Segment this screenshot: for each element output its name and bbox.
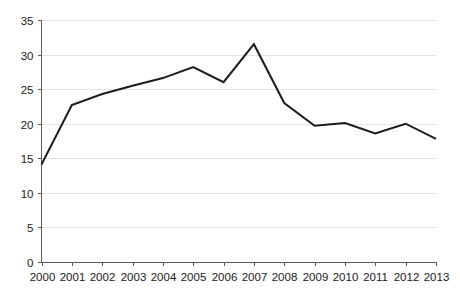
x-tick-label: 2013 <box>424 271 450 283</box>
line-chart-figure: 05101520253035 2000200120022003200420052… <box>0 0 460 300</box>
chart-plot-area: 05101520253035 2000200120022003200420052… <box>0 0 460 300</box>
data-series-line <box>42 44 437 164</box>
gridlines <box>42 21 437 228</box>
x-tick-label: 2002 <box>90 271 116 283</box>
x-tick-label: 2004 <box>151 271 177 283</box>
y-axis-ticks: 05101520253035 <box>21 15 42 269</box>
x-tick-label: 2003 <box>121 271 147 283</box>
x-tick-label: 2006 <box>212 271 238 283</box>
y-tick-label: 10 <box>21 188 34 200</box>
y-tick-label: 25 <box>21 84 34 96</box>
x-axis-ticks: 2000200120022003200420052006200720082009… <box>30 262 450 283</box>
x-tick-label: 2000 <box>30 271 56 283</box>
x-tick-label: 2011 <box>363 271 388 283</box>
y-tick-label: 5 <box>27 222 33 234</box>
y-tick-label: 30 <box>21 50 34 62</box>
x-tick-label: 2012 <box>394 271 420 283</box>
y-tick-label: 15 <box>21 153 34 165</box>
x-tick-label: 2008 <box>272 271 298 283</box>
y-tick-label: 0 <box>27 257 33 269</box>
x-tick-label: 2001 <box>60 271 86 283</box>
y-tick-label: 35 <box>21 15 34 27</box>
x-tick-label: 2007 <box>242 271 268 283</box>
x-tick-label: 2005 <box>181 271 207 283</box>
y-tick-label: 20 <box>21 119 34 131</box>
x-tick-label: 2010 <box>333 271 359 283</box>
x-tick-label: 2009 <box>303 271 329 283</box>
